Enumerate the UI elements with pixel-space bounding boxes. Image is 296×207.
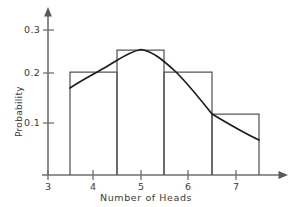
x-tick-label-3: 3	[45, 181, 51, 192]
y-tick-label-0-2: 0.2	[24, 67, 40, 78]
bar-6	[164, 72, 212, 175]
y-axis-title: Probability	[14, 86, 24, 137]
x-tick-label-4: 4	[90, 181, 96, 192]
x-tick-label-5: 5	[138, 181, 144, 192]
y-axis-arrow-icon	[44, 7, 52, 17]
y-axis	[44, 7, 52, 175]
histogram-bars	[70, 50, 259, 175]
y-tick-label-0-1: 0.1	[24, 117, 40, 128]
x-axis-title: Number of Heads	[100, 192, 192, 203]
bar-7	[212, 114, 259, 175]
x-axis-arrow-icon	[279, 171, 289, 179]
x-tick-label-7: 7	[233, 181, 239, 192]
x-tick-label-6: 6	[185, 181, 191, 192]
x-axis	[42, 171, 288, 179]
bar-5	[117, 50, 164, 175]
bar-4	[70, 72, 117, 175]
probability-histogram-chart: 0.3 0.2 0.1 3 4 5 6 7 Probability Number…	[0, 0, 296, 207]
chart-plot-area	[0, 0, 296, 207]
y-tick-label-0-3: 0.3	[24, 24, 40, 35]
